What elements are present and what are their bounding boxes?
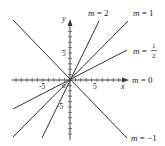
svg-text:m =: m = (133, 46, 147, 56)
label-m-0: m = 0 (132, 75, 153, 85)
label-m-neg1: m = −1 (131, 133, 157, 143)
y-axis-label: y (61, 14, 66, 23)
x-tick-label-5: 5 (93, 82, 97, 91)
svg-text:m = −1: m = −1 (131, 133, 157, 143)
slope-diagram: y x -5 5 5 -5 0 m = 2 m = 1 m = 1 2 m = … (0, 0, 165, 146)
svg-text:2: 2 (152, 52, 156, 60)
x-axis-label: x (120, 82, 125, 91)
origin-label: 0 (62, 82, 66, 90)
y-axis-arrow-icon (68, 19, 73, 26)
label-m-2: m = 2 (88, 8, 109, 18)
y-tick-label-neg5: -5 (57, 102, 63, 111)
svg-text:1: 1 (152, 42, 156, 50)
label-m-1: m = 1 (133, 8, 154, 18)
label-m-half: m = 1 2 (133, 42, 157, 60)
y-tick-label-5: 5 (62, 49, 66, 58)
svg-text:m = 0: m = 0 (132, 75, 153, 85)
x-tick-label-neg5: -5 (39, 82, 45, 91)
svg-text:m = 2: m = 2 (88, 8, 109, 18)
svg-text:m = 1: m = 1 (133, 8, 154, 18)
